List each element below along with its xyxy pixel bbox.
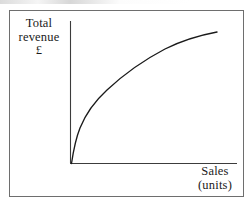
x-axis-label-line-2: (units): [186, 179, 244, 193]
x-axis-label-line-1: Sales: [186, 165, 244, 179]
y-axis-label-line-3: £: [10, 44, 68, 58]
y-axis-label: Total revenue £: [10, 17, 68, 58]
total-revenue-curve: [72, 32, 218, 164]
revenue-curve-figure: Total revenue £ Sales (units): [0, 0, 250, 207]
x-axis-label: Sales (units): [186, 165, 244, 192]
y-axis-label-line-1: Total: [10, 17, 68, 31]
y-axis-label-line-2: revenue: [10, 31, 68, 45]
